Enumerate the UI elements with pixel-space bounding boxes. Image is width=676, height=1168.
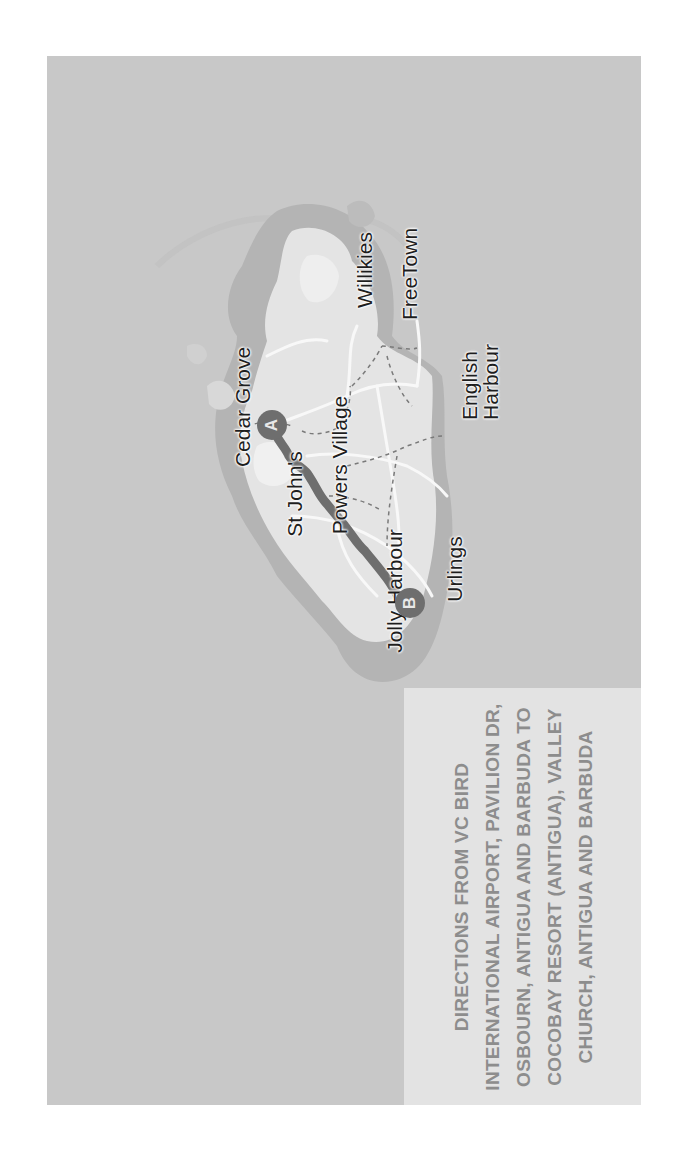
place-label-cedar-grove: Cedar Grove bbox=[232, 347, 254, 467]
directions-caption-box: DIRECTIONS FROM VC BIRD INTERNATIONAL AI… bbox=[404, 688, 641, 1105]
place-label-st-johns: St John's bbox=[284, 451, 306, 537]
directions-caption-text: DIRECTIONS FROM VC BIRD INTERNATIONAL AI… bbox=[445, 692, 600, 1102]
place-label-urlings: Urlings bbox=[444, 536, 466, 601]
map-frame[interactable]: Cedar Grove St John's Powers Village Jol… bbox=[47, 56, 641, 1105]
end-marker-b[interactable]: B bbox=[395, 588, 425, 618]
start-marker-a[interactable]: A bbox=[257, 410, 287, 440]
place-label-powers-village: Powers Village bbox=[329, 396, 351, 535]
marker-a-letter: A bbox=[262, 419, 282, 431]
marker-b-letter: B bbox=[400, 597, 420, 609]
place-label-english-harbour: English Harbour bbox=[459, 344, 501, 420]
english-harbour-line2: Harbour bbox=[480, 344, 501, 420]
english-harbour-line1: English bbox=[459, 344, 480, 420]
place-label-willikies: Willikies bbox=[354, 232, 376, 308]
place-label-freetown: FreeTown bbox=[399, 228, 421, 320]
